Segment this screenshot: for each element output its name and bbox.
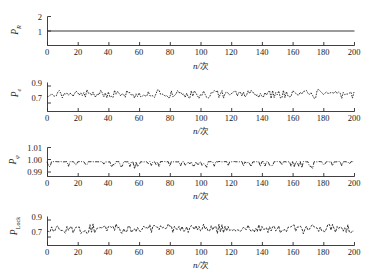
panel-4-x-axis-label: n/次 — [151, 258, 251, 270]
panel-2-xtick-160: 160 — [279, 114, 307, 122]
panel-2-xtick-60: 60 — [125, 114, 153, 122]
panel-4-y-axis-label: PLock — [9, 204, 21, 248]
panel-3-plot-area — [47, 147, 355, 177]
panel-4-xtick-80: 80 — [156, 248, 184, 256]
panel-4-xtick-100: 100 — [187, 248, 215, 256]
panel-3-xtick-200: 200 — [340, 179, 368, 187]
panel-3-ytick-1-01: 1.01 — [8, 144, 42, 152]
panel-1-xtick-160: 160 — [279, 48, 307, 56]
panel-4-xtick-40: 40 — [94, 248, 122, 256]
chart-panel-3: Pφ 1.01 1.00 0.99 — [0, 135, 371, 200]
panel-1-xtick-120: 120 — [217, 48, 245, 56]
panel-4-xtick-180: 180 — [309, 248, 337, 256]
panel-3-xtick-0: 0 — [33, 179, 61, 187]
panel-1-ytick-2: 2 — [20, 13, 42, 21]
panel-3-xtick-120: 120 — [217, 179, 245, 187]
panel-3-xtick-60: 60 — [125, 179, 153, 187]
panel-2-xtick-200: 200 — [340, 114, 368, 122]
panel-4-xtick-140: 140 — [248, 248, 276, 256]
panel-3-xtick-80: 80 — [156, 179, 184, 187]
panel-1-xtick-180: 180 — [309, 48, 337, 56]
panel-2-xtick-140: 140 — [248, 114, 276, 122]
panel-3-xtick-20: 20 — [64, 179, 92, 187]
panel-1-xtick-100: 100 — [187, 48, 215, 56]
panel-4-ytick-0-9: 0.9 — [12, 213, 42, 221]
panel-4-xtick-60: 60 — [125, 248, 153, 256]
panel-4-ytick-0-7: 0.7 — [12, 228, 42, 236]
panel-4-series-line — [47, 224, 354, 234]
panel-1-xtick-0: 0 — [33, 48, 61, 56]
panel-3-ytick-0-99: 0.99 — [8, 168, 42, 176]
panel-4-xtick-200: 200 — [340, 248, 368, 256]
panel-4-plot-area — [47, 216, 355, 246]
chart-panel-4: PLock 0.9 0.7 — [0, 200, 371, 280]
panel-2-xtick-40: 40 — [94, 114, 122, 122]
chart-panel-2: Pe 0.9 0.7 — [0, 70, 371, 135]
panel-3-xtick-160: 160 — [279, 179, 307, 187]
panel-3-xtick-140: 140 — [248, 179, 276, 187]
panel-3-ytick-1-00: 1.00 — [8, 156, 42, 164]
panel-2-xtick-20: 20 — [64, 114, 92, 122]
panel-4-xtick-160: 160 — [279, 248, 307, 256]
panel-2-xtick-80: 80 — [156, 114, 184, 122]
panel-3-series-line — [47, 162, 354, 169]
panel-4-xtick-120: 120 — [217, 248, 245, 256]
panel-2-xtick-120: 120 — [217, 114, 245, 122]
panel-1-xtick-60: 60 — [125, 48, 153, 56]
panel-2-plot-area — [47, 82, 355, 112]
panel-4-xtick-0: 0 — [33, 248, 61, 256]
panel-2-xtick-180: 180 — [309, 114, 337, 122]
panel-2-ytick-0-9: 0.9 — [12, 79, 42, 87]
panel-1-plot-area — [47, 16, 355, 46]
panel-1-xtick-80: 80 — [156, 48, 184, 56]
panel-4-xtick-20: 20 — [64, 248, 92, 256]
panel-1-xtick-20: 20 — [64, 48, 92, 56]
panel-3-xtick-100: 100 — [187, 179, 215, 187]
panel-3-xtick-180: 180 — [309, 179, 337, 187]
panel-1-xtick-200: 200 — [340, 48, 368, 56]
panel-2-series-line — [47, 90, 354, 99]
panel-1-xtick-40: 40 — [94, 48, 122, 56]
panel-3-xtick-40: 40 — [94, 179, 122, 187]
panel-2-xtick-0: 0 — [33, 114, 61, 122]
panel-1-ytick-1: 1 — [20, 28, 42, 36]
panel-2-xtick-100: 100 — [187, 114, 215, 122]
panel-2-ytick-0-7: 0.7 — [12, 94, 42, 102]
panel-1-xtick-140: 140 — [248, 48, 276, 56]
chart-panel-1: PR 2 1 — [0, 0, 371, 70]
